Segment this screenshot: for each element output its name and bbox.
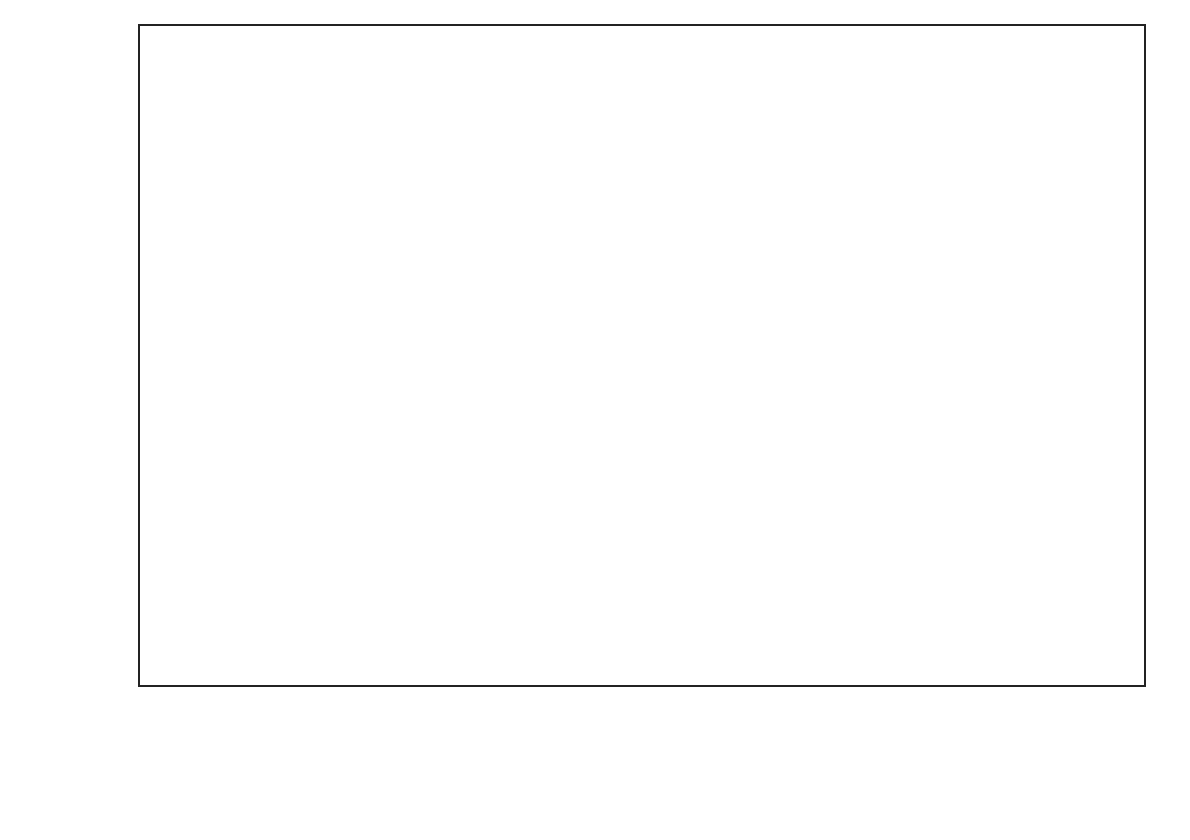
data-points-layer: [140, 26, 1144, 685]
scatter-plot-figure: [0, 0, 1190, 840]
plot-area: [138, 24, 1146, 687]
x-axis-tick-labels: [0, 706, 1190, 756]
